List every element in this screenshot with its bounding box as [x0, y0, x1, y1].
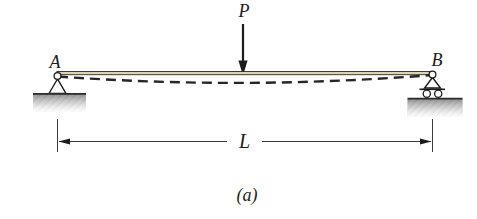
dimension-line: L	[58, 119, 433, 152]
figure-caption: (a)	[237, 185, 258, 206]
load-label: P	[238, 1, 250, 21]
roller-support-b	[408, 71, 463, 117]
ground-hatch-left	[33, 94, 86, 112]
span-label: L	[238, 130, 250, 152]
support-a-triangle	[49, 79, 66, 94]
load-arrow	[238, 24, 247, 76]
roller-circle-left	[423, 90, 430, 97]
dim-arrowhead-left	[59, 139, 71, 145]
support-a-pin-circle	[54, 73, 61, 80]
support-b-pin-circle	[429, 71, 436, 78]
ground-hatch-right	[408, 99, 463, 117]
support-b-triangle	[425, 78, 441, 89]
support-a-label: A	[49, 52, 62, 72]
beam-diagram-canvas: P A B	[0, 0, 477, 219]
beam-diagram-figure: P A B	[0, 0, 477, 219]
beam	[57, 72, 433, 75]
support-b-label: B	[432, 50, 443, 70]
roller-circle-right	[435, 90, 442, 97]
dim-arrowhead-right	[420, 139, 432, 145]
deflected-shape-dashed	[58, 75, 432, 83]
